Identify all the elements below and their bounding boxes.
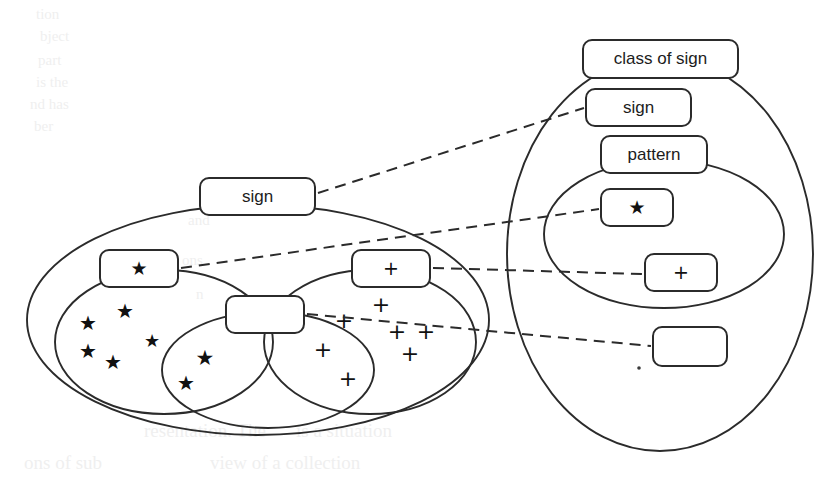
node-right-star-label: ★ xyxy=(628,196,645,218)
node-left-empty-box[interactable] xyxy=(226,296,304,333)
node-right-sign[interactable]: sign xyxy=(586,89,691,126)
diagram-canvas: tionbjectpartis thend hasberandonsnresen… xyxy=(0,0,835,489)
left-instance-group: ★★★★★★★ +++++++ sign ★ + xyxy=(27,178,489,435)
node-right-sign-label: sign xyxy=(623,98,654,117)
node-left-plus-label: + xyxy=(383,257,399,279)
node-right-empty-box[interactable] xyxy=(653,327,727,366)
star-mark: ★ xyxy=(104,350,122,374)
ink-dot xyxy=(637,366,641,370)
star-mark: ★ xyxy=(196,346,215,370)
node-left-plus[interactable]: + xyxy=(352,250,430,287)
star-mark: ★ xyxy=(116,299,134,323)
node-right-pattern-label: pattern xyxy=(628,145,681,164)
node-left-sign[interactable]: sign xyxy=(200,178,315,215)
star-mark: ★ xyxy=(144,330,160,351)
node-right-pattern[interactable]: pattern xyxy=(601,136,707,173)
star-mark: ★ xyxy=(79,311,97,335)
node-right-star[interactable]: ★ xyxy=(601,189,673,226)
left-plus-marks: +++++++ xyxy=(314,292,435,391)
plus-mark: + xyxy=(401,341,419,366)
node-left-star[interactable]: ★ xyxy=(100,250,178,287)
left-plus-ellipse xyxy=(264,270,476,414)
mapping-line-empty xyxy=(307,314,651,346)
mapping-line-sign xyxy=(318,108,584,193)
right-class-group: class of sign sign pattern ★ + xyxy=(507,40,813,451)
node-right-class-of-sign[interactable]: class of sign xyxy=(583,40,738,78)
node-left-sign-label: sign xyxy=(242,187,273,206)
plus-mark: + xyxy=(335,308,353,333)
node-left-star-label: ★ xyxy=(130,257,147,279)
node-right-empty[interactable] xyxy=(653,327,727,366)
star-mark: ★ xyxy=(177,371,195,395)
node-left-empty[interactable] xyxy=(226,296,304,333)
node-right-class-of-sign-label: class of sign xyxy=(614,49,708,68)
plus-mark: + xyxy=(314,337,332,362)
node-right-plus-label: + xyxy=(673,261,689,283)
plus-mark: + xyxy=(339,366,357,391)
set-mapping-diagram: ★★★★★★★ +++++++ sign ★ + xyxy=(0,0,835,489)
node-right-plus[interactable]: + xyxy=(645,254,717,291)
star-mark: ★ xyxy=(79,339,97,363)
plus-mark: + xyxy=(417,319,435,344)
left-star-marks: ★★★★★★★ xyxy=(79,299,214,395)
plus-mark: + xyxy=(372,292,390,317)
